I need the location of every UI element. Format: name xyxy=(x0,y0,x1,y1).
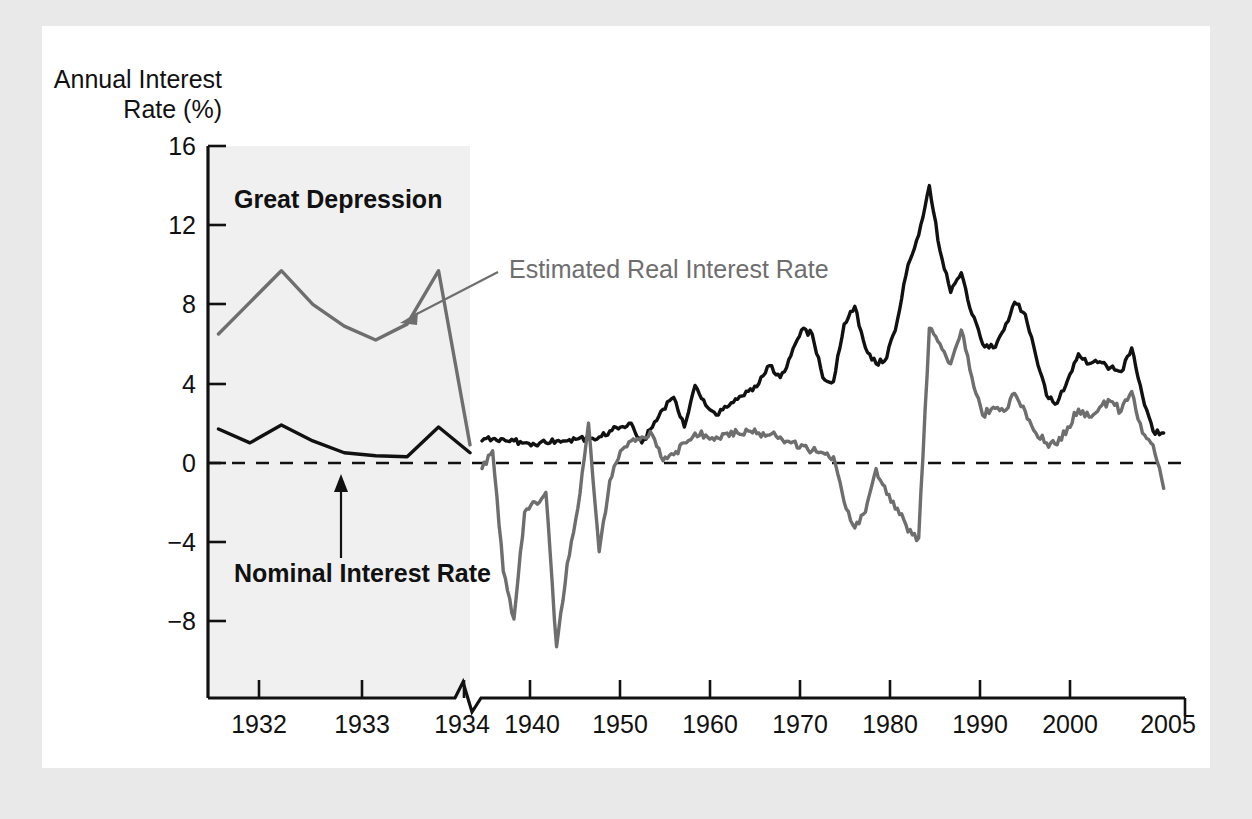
x-tick-label-1950: 1950 xyxy=(592,710,648,738)
x-tick-label-1960: 1960 xyxy=(682,710,738,738)
x-tick-label-1933: 1933 xyxy=(334,710,390,738)
x-tick-label-1980: 1980 xyxy=(862,710,918,738)
annotation-real-interest-rate: Estimated Real Interest Rate xyxy=(509,255,829,283)
y-tick-label-neg4: −4 xyxy=(167,528,196,556)
interest-rate-chart: Annual Interest Rate (%) 16 12 8 4 0 −4 … xyxy=(0,0,1252,819)
y-axis-title-line2: Rate (%) xyxy=(123,95,222,123)
y-tick-label-16: 16 xyxy=(168,132,196,160)
y-axis-title-line1: Annual Interest xyxy=(54,65,222,93)
x-tick-label-1940: 1940 xyxy=(504,710,560,738)
x-tick-label-2005: 2005 xyxy=(1140,710,1196,738)
annotation-great-depression: Great Depression xyxy=(234,185,442,213)
x-tick-label-1934: 1934 xyxy=(434,710,490,738)
x-tick-label-1970: 1970 xyxy=(772,710,828,738)
x-tick-label-1932: 1932 xyxy=(231,710,287,738)
x-tick-label-1990: 1990 xyxy=(952,710,1008,738)
x-tick-label-2000: 2000 xyxy=(1042,710,1098,738)
y-tick-label-12: 12 xyxy=(168,211,196,239)
annotation-nominal-interest-rate: Nominal Interest Rate xyxy=(234,559,491,587)
series-nominal-modern-segment xyxy=(482,186,1164,446)
y-tick-label-0: 0 xyxy=(182,449,196,477)
figure-frame: Annual Interest Rate (%) 16 12 8 4 0 −4 … xyxy=(0,0,1252,819)
y-tick-label-neg8: −8 xyxy=(167,607,196,635)
y-tick-label-8: 8 xyxy=(182,290,196,318)
y-tick-label-4: 4 xyxy=(182,370,196,398)
great-depression-shaded-band xyxy=(208,146,470,698)
